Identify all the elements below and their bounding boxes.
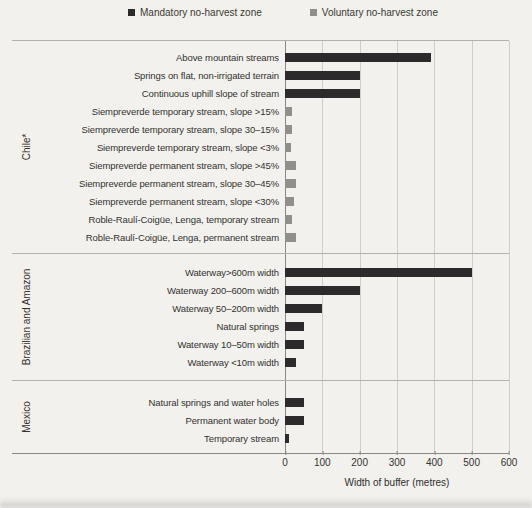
- bar-label: Waterway>600m width: [12, 267, 285, 278]
- bar-mandatory: [285, 358, 296, 367]
- chart-body: Above mountain streamsSprings on flat, n…: [12, 40, 509, 454]
- bar-track: [285, 71, 509, 80]
- bar-voluntary: [285, 125, 292, 134]
- legend-swatch-mandatory-icon: [128, 9, 135, 16]
- bar-voluntary: [285, 233, 296, 242]
- bar-row: Permanent water body: [12, 411, 509, 429]
- bar-row: Siempreverde permanent stream, slope 30–…: [12, 174, 509, 192]
- bar-label: Above mountain streams: [12, 52, 285, 63]
- bar-track: [285, 161, 509, 170]
- bar-track: [285, 322, 509, 331]
- group-label: Mexico: [21, 401, 32, 433]
- x-axis-title: Width of buffer (metres): [285, 477, 509, 488]
- bar-group: Waterway>600m widthWaterway 200–600m wid…: [12, 253, 509, 380]
- bar-row: Natural springs and water holes: [12, 393, 509, 411]
- bar-voluntary: [285, 161, 296, 170]
- bar-label: Siempreverde permanent stream, slope >45…: [12, 160, 285, 171]
- bar-track: [285, 416, 509, 425]
- bar-label: Natural springs: [12, 321, 285, 332]
- bar-row: Temporary stream: [12, 429, 509, 447]
- chart-legend: Mandatory no-harvest zone Voluntary no-h…: [34, 7, 532, 18]
- bar-voluntary: [285, 107, 292, 116]
- bar-row: Siempreverde temporary stream, slope <3%: [12, 138, 509, 156]
- x-tick-label: 300: [389, 457, 406, 468]
- legend-item-voluntary: Voluntary no-harvest zone: [310, 7, 438, 18]
- legend-item-mandatory: Mandatory no-harvest zone: [128, 7, 262, 18]
- gridline: [509, 41, 510, 453]
- bar-track: [285, 398, 509, 407]
- bar-row: Waterway 50–200m width: [12, 299, 509, 317]
- bar-track: [285, 107, 509, 116]
- bar-row: Springs on flat, non-irrigated terrain: [12, 66, 509, 84]
- bar-label: Waterway <10m width: [12, 357, 285, 368]
- group-label: Brazilian and Amazon: [21, 269, 32, 366]
- bar-label: Siempreverde temporary stream, slope 30–…: [12, 124, 285, 135]
- bar-row: Above mountain streams: [12, 48, 509, 66]
- page-shadow-decoration: [0, 498, 532, 508]
- bar-voluntary: [285, 179, 296, 188]
- bar-track: [285, 179, 509, 188]
- bar-label: Continuous uphill slope of stream: [12, 88, 285, 99]
- x-tick-label: 400: [426, 457, 443, 468]
- bar-label: Siempreverde permanent stream, slope <30…: [12, 196, 285, 207]
- legend-label-mandatory: Mandatory no-harvest zone: [140, 7, 262, 18]
- bar-track: [285, 340, 509, 349]
- bar-track: [285, 304, 509, 313]
- x-tick-label: 600: [501, 457, 518, 468]
- bar-label: Roble-Raulí-Coigüe, Lenga, permanent str…: [12, 232, 285, 243]
- bar-label: Temporary stream: [12, 433, 285, 444]
- bar-label: Siempreverde permanent stream, slope 30–…: [12, 178, 285, 189]
- bar-label: Roble-Raulí-Coigüe, Lenga, temporary str…: [12, 214, 285, 225]
- bar-track: [285, 268, 509, 277]
- bar-row: Roble-Raulí-Coigüe, Lenga, temporary str…: [12, 210, 509, 228]
- bar-label: Permanent water body: [12, 415, 285, 426]
- bar-voluntary: [285, 143, 291, 152]
- bar-row: Siempreverde temporary stream, slope >15…: [12, 102, 509, 120]
- bar-row: Waterway <10m width: [12, 353, 509, 371]
- bar-row: Siempreverde temporary stream, slope 30–…: [12, 120, 509, 138]
- bar-row: Waterway 200–600m width: [12, 281, 509, 299]
- bar-mandatory: [285, 89, 360, 98]
- bar-label: Waterway 10–50m width: [12, 339, 285, 350]
- bar-row: Roble-Raulí-Coigüe, Lenga, permanent str…: [12, 228, 509, 246]
- bar-row: Continuous uphill slope of stream: [12, 84, 509, 102]
- bar-mandatory: [285, 286, 360, 295]
- bar-label: Siempreverde temporary stream, slope >15…: [12, 106, 285, 117]
- bar-track: [285, 143, 509, 152]
- bar-track: [285, 125, 509, 134]
- x-tick-label: 0: [282, 457, 288, 468]
- bar-row: Siempreverde permanent stream, slope <30…: [12, 192, 509, 210]
- x-tick-label: 100: [314, 457, 331, 468]
- bar-voluntary: [285, 215, 292, 224]
- legend-swatch-voluntary-icon: [310, 9, 317, 16]
- x-tick-label: 200: [351, 457, 368, 468]
- bar-row: Siempreverde permanent stream, slope >45…: [12, 156, 509, 174]
- bar-track: [285, 215, 509, 224]
- bar-track: [285, 53, 509, 62]
- bar-mandatory: [285, 322, 304, 331]
- bar-label: Natural springs and water holes: [12, 397, 285, 408]
- bar-mandatory: [285, 304, 322, 313]
- bar-track: [285, 89, 509, 98]
- bar-group: Natural springs and water holesPermanent…: [12, 380, 509, 453]
- bar-mandatory: [285, 416, 304, 425]
- bar-label: Waterway 200–600m width: [12, 285, 285, 296]
- bar-label: Siempreverde temporary stream, slope <3%: [12, 142, 285, 153]
- bar-track: [285, 434, 509, 443]
- bar-mandatory: [285, 268, 472, 277]
- legend-label-voluntary: Voluntary no-harvest zone: [322, 7, 438, 18]
- bar-track: [285, 197, 509, 206]
- bar-track: [285, 233, 509, 242]
- x-tick-label: 500: [463, 457, 480, 468]
- bar-mandatory: [285, 53, 431, 62]
- bar-row: Waterway 10–50m width: [12, 335, 509, 353]
- bar-row: Waterway>600m width: [12, 263, 509, 281]
- bar-mandatory: [285, 434, 289, 443]
- bar-label: Waterway 50–200m width: [12, 303, 285, 314]
- bar-mandatory: [285, 71, 360, 80]
- bar-track: [285, 358, 509, 367]
- bar-track: [285, 286, 509, 295]
- bar-mandatory: [285, 398, 304, 407]
- bar-voluntary: [285, 197, 294, 206]
- group-label: Chile*: [21, 134, 32, 161]
